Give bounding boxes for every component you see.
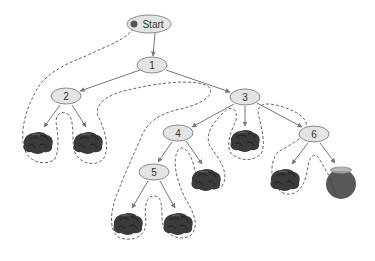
node-3-label: 3	[242, 92, 248, 103]
node-6-label: 6	[311, 129, 317, 140]
node-5: 5	[139, 164, 169, 180]
node-2: 2	[51, 88, 81, 104]
node-4: 4	[163, 125, 193, 141]
rock-icon	[191, 169, 220, 191]
rock-icon	[113, 213, 142, 235]
rock-icon	[23, 132, 52, 154]
pot-of-gold-icon	[326, 167, 356, 200]
node-start-label: Start	[142, 19, 163, 30]
rock-icon	[163, 213, 192, 235]
node-start: Start	[127, 15, 171, 33]
rock-icon	[270, 169, 299, 191]
search-tree-diagram: Start 1 2 3 4 5 6	[0, 0, 375, 261]
node-1: 1	[137, 57, 167, 73]
node-3: 3	[230, 89, 260, 105]
node-4-label: 4	[175, 128, 181, 139]
start-dot-icon	[131, 21, 138, 28]
node-1-label: 1	[149, 60, 155, 71]
node-6: 6	[299, 126, 329, 142]
rock-icon	[230, 130, 259, 152]
node-5-label: 5	[151, 167, 157, 178]
node-2-label: 2	[63, 91, 69, 102]
rock-icon	[73, 132, 102, 154]
